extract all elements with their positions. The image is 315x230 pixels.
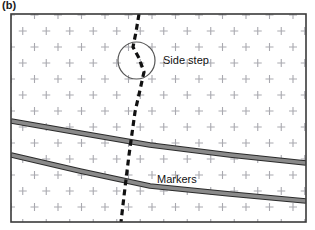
annotation-markers: Markers [157,173,197,185]
plus-sign-icon [313,171,315,179]
plus-sign-icon [313,203,315,211]
figure-plot-area: Side step Markers [0,0,314,230]
plus-sign-icon [313,139,315,147]
plus-sign-icon [0,27,3,35]
plus-sign-icon [313,75,315,83]
plus-sign-icon [0,219,3,227]
plus-sign-icon [313,11,315,19]
plus-sign-icon [0,59,3,67]
plus-sign-icon [313,43,315,51]
plus-sign-icon [0,155,3,163]
annotation-side-step: Side step [163,54,209,66]
plus-sign-icon [0,187,3,195]
figure-panel: (b) Side step Markers [0,0,314,230]
plus-sign-icon [313,107,315,115]
plus-sign-icon [0,91,3,99]
plus-sign-icon [0,123,3,131]
